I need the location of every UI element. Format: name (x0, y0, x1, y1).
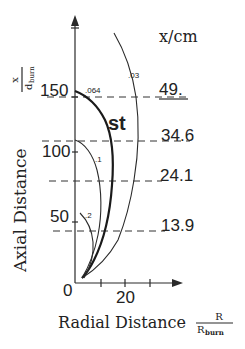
y-axis-frac-num: x (9, 77, 20, 83)
ref-label-13-9: 13.9 (161, 216, 194, 235)
y-axis-frac-den: d (23, 83, 34, 90)
y-axis-arrow-icon (71, 15, 79, 26)
curves (75, 33, 138, 278)
ref-label-24-1: 24.1 (160, 166, 193, 185)
ref-label-34-6: 34.6 (161, 126, 194, 145)
x-axis-title-text: Radial Distance (58, 313, 186, 332)
y-axis-title: Axial Distance x d burn (9, 66, 36, 273)
curve-label-064: .064 (85, 86, 101, 95)
y-tick-label-50: 50 (50, 207, 69, 226)
curve-2 (80, 213, 93, 278)
curve-annotation-st: st (108, 112, 126, 134)
y-axis-frac-sub: burn (28, 66, 36, 83)
x-axis-arrow-icon (172, 279, 183, 287)
x-axis-frac-num: R (215, 311, 223, 322)
y-tick-label-150: 150 (40, 81, 68, 100)
x-axis-frac-den: R (197, 324, 205, 335)
x-tick-label-20: 20 (116, 288, 135, 307)
axes (71, 15, 183, 287)
curve-03 (82, 33, 138, 278)
x-tick-label-0: 0 (63, 281, 72, 300)
y-tick-label-100: 100 (42, 142, 70, 161)
curve-label-03: .03 (128, 71, 140, 80)
x-axis-frac-sub: burn (205, 328, 224, 337)
y-axis-title-text: Axial Distance (10, 148, 30, 273)
x-axis-title: Radial Distance R R burn (58, 311, 233, 337)
curve-label-1: .1 (95, 155, 102, 164)
unit-label: x/cm (159, 27, 198, 46)
ref-label-49: 49. (159, 80, 183, 99)
chart: 150 100 50 0 20 49. 34.6 24.1 13.9 .03 .… (0, 0, 245, 349)
curve-label-2: .2 (85, 211, 92, 220)
